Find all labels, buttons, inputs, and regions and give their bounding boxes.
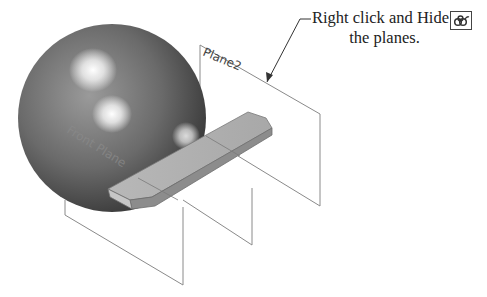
front-plane (65, 200, 183, 285)
hide-glasses-icon[interactable] (450, 11, 472, 30)
plane1 (183, 188, 252, 245)
glasses-glyph (451, 12, 471, 29)
callout-leader (266, 19, 311, 82)
plane2-label: Plane2 (201, 45, 244, 74)
